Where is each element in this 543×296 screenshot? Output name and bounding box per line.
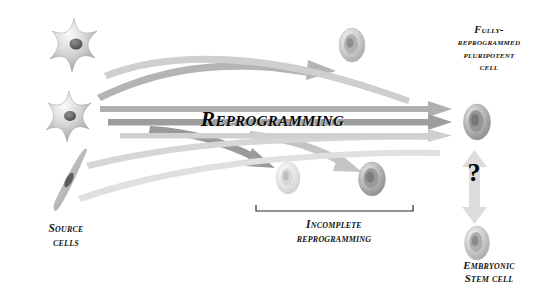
incomplete-cell-top-right <box>339 28 365 62</box>
incomplete-reprogramming-bracket <box>256 205 413 211</box>
diagram-title-reprogramming: Reprogramming <box>165 107 380 132</box>
source-cell-star-middle <box>46 91 91 142</box>
incomplete-cell-lower-right <box>359 162 386 196</box>
pluripotent-cell <box>464 104 491 140</box>
label-fully-reprogrammed-pluripotent-cell: Fully- reprogrammed pluripotent cell <box>438 24 540 74</box>
label-incomplete-reprogramming: Incomplete reprogramming <box>243 218 425 245</box>
label-source-cells: Source cells <box>8 222 124 249</box>
question-mark-label: ? <box>462 158 486 188</box>
embryonic-stem-cell <box>465 226 490 260</box>
reprogramming-diagram: Source cells Incomplete reprogramming Fu… <box>0 0 543 296</box>
source-cell-star-top <box>50 18 97 72</box>
incomplete-cell-lower-left <box>276 162 300 194</box>
label-embryonic-stem-cell: Embryonic Stem cell <box>436 259 542 285</box>
